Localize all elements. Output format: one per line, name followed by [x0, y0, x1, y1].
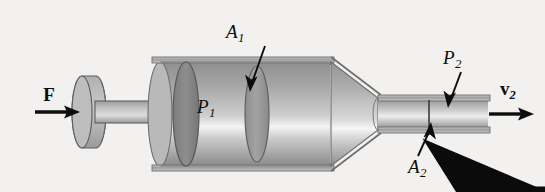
area-small-subscript: 2 — [420, 165, 426, 180]
vector-arrow-accent-icon — [495, 70, 521, 80]
pressure-large-symbol: P — [197, 96, 209, 117]
physics-figure-piston-nozzle: F A1 P1 P2 A2 v2 — [0, 0, 545, 192]
area-small-symbol: A — [408, 156, 420, 177]
vector-arrow-accent-icon — [41, 76, 57, 86]
force-label: F — [41, 85, 57, 104]
pressure-small-symbol: P — [443, 47, 455, 68]
pressure-large-label: P1 — [197, 97, 216, 120]
pressure-small-label: P2 — [443, 48, 462, 71]
pressure-large-subscript: 1 — [209, 105, 215, 120]
velocity-out-label: v2 — [495, 79, 521, 102]
area-large-label: A1 — [226, 22, 245, 45]
pressure-small-subscript: 2 — [455, 56, 461, 71]
area-small-label: A2 — [408, 157, 427, 180]
area-large-symbol: A — [226, 21, 238, 42]
area-large-subscript: 1 — [238, 30, 244, 45]
